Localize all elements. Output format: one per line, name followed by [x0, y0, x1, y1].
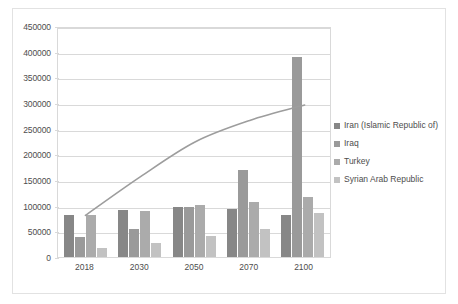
bar: [195, 205, 205, 257]
bar: [260, 229, 270, 257]
y-tick-label: 50000: [28, 227, 51, 237]
bar: [303, 197, 313, 257]
bar: [206, 236, 216, 257]
legend-label: Iran (Islamic Republic of): [344, 121, 438, 130]
y-tick-label: 400000: [23, 48, 51, 58]
bar: [281, 215, 291, 257]
bar-group: [112, 28, 166, 257]
y-axis: 0500001000001500002000002500003000003500…: [12, 27, 55, 258]
y-tick-label: 150000: [23, 176, 51, 186]
bar: [227, 209, 237, 257]
y-tick-label: 100000: [23, 202, 51, 212]
legend-item[interactable]: Iraq: [334, 136, 446, 151]
x-tick-label: 2100: [276, 262, 331, 278]
bar: [86, 215, 96, 257]
bar: [129, 229, 139, 257]
bar-group: [58, 28, 112, 257]
legend-label: Turkey: [344, 157, 370, 166]
bar: [151, 243, 161, 257]
x-tick-label: 2070: [221, 262, 276, 278]
y-tick-label: 0: [46, 253, 51, 263]
y-tick-label: 450000: [23, 22, 51, 32]
legend-item[interactable]: Turkey: [334, 154, 446, 169]
legend-label: Syrian Arab Republic: [344, 175, 423, 184]
bar: [238, 170, 248, 257]
legend: Iran (Islamic Republic of)IraqTurkeySyri…: [334, 118, 446, 190]
y-tick-label: 200000: [23, 150, 51, 160]
y-tick-label: 250000: [23, 125, 51, 135]
bar: [118, 210, 128, 257]
y-tick-mark: [55, 258, 59, 259]
bar: [140, 211, 150, 257]
legend-item[interactable]: Iran (Islamic Republic of): [334, 118, 446, 133]
legend-swatch-icon: [334, 177, 340, 183]
x-tick-label: 2030: [112, 262, 167, 278]
chart-figure: 0500001000001500002000002500003000003500…: [0, 0, 458, 304]
legend-swatch-icon: [334, 141, 340, 147]
x-tick-label: 2050: [167, 262, 222, 278]
bar-group: [221, 28, 275, 257]
plot-area: [57, 27, 331, 258]
legend-label: Iraq: [344, 139, 359, 148]
bar: [292, 57, 302, 257]
bar: [249, 202, 259, 257]
bar: [64, 215, 74, 257]
bar-group: [276, 28, 330, 257]
bars-layer: [58, 28, 330, 257]
legend-swatch-icon: [334, 123, 340, 129]
bar-group: [167, 28, 221, 257]
legend-item[interactable]: Syrian Arab Republic: [334, 172, 446, 187]
legend-swatch-icon: [334, 159, 340, 165]
x-axis: 20182030205020702100: [57, 262, 331, 278]
bar: [184, 207, 194, 257]
bar: [314, 213, 324, 257]
y-tick-label: 300000: [23, 99, 51, 109]
bar: [75, 237, 85, 257]
bar: [173, 207, 183, 257]
x-tick-label: 2018: [57, 262, 112, 278]
bar: [97, 248, 107, 257]
y-tick-label: 350000: [23, 73, 51, 83]
